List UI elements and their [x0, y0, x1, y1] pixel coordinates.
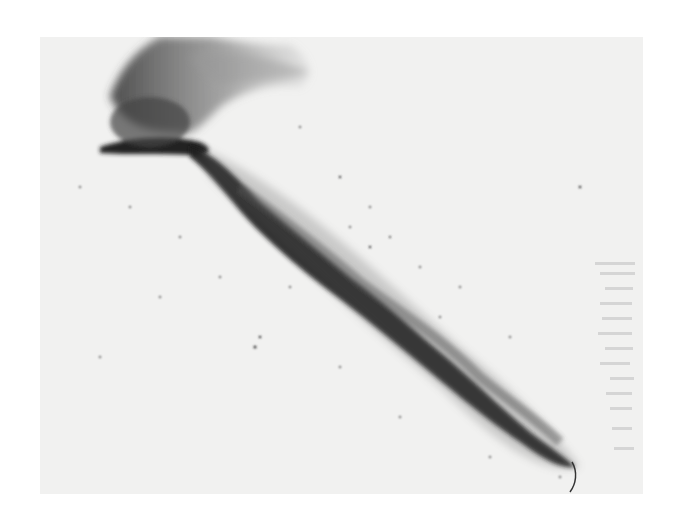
faint-calligraphy — [595, 262, 635, 450]
gunpowder-drawing — [40, 37, 643, 494]
artwork-canvas — [40, 37, 643, 494]
spray-halo — [200, 147, 580, 469]
